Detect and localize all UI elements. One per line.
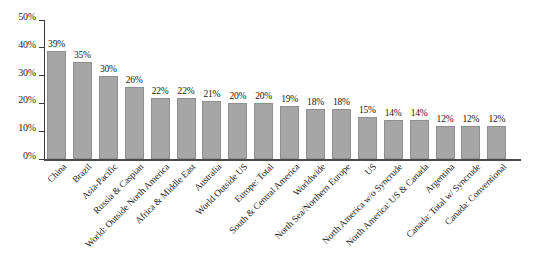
bar-value-label: 14%	[411, 108, 428, 118]
y-axis-tick-label: 30%	[18, 68, 36, 78]
bar-value-label: 12%	[462, 114, 479, 124]
x-axis-category-labels: ChinaBrazilAsia-PacificRussia & CaspianW…	[44, 161, 544, 278]
y-axis-tick-label: 50%	[18, 12, 36, 22]
bar[interactable]	[125, 87, 144, 159]
bar-slot: 21%	[202, 20, 221, 159]
x-axis-category-label-text: China	[45, 161, 69, 185]
bar[interactable]	[177, 98, 196, 159]
bar-value-label: 22%	[178, 86, 195, 96]
y-axis-tick-label: 0%	[23, 151, 36, 161]
bar-slot: 14%	[384, 20, 403, 159]
bar[interactable]	[487, 126, 506, 159]
bar-value-label: 19%	[281, 94, 298, 104]
y-axis-tick-label: 40%	[18, 40, 36, 50]
bar[interactable]	[306, 109, 325, 159]
bar-slot: 12%	[461, 20, 480, 159]
bar[interactable]	[73, 62, 92, 159]
bar-slot: 18%	[306, 20, 325, 159]
bar-slot: 20%	[254, 20, 273, 159]
bar-value-label: 26%	[126, 75, 143, 85]
y-axis-tick-label: 20%	[18, 95, 36, 105]
bar[interactable]	[280, 106, 299, 159]
bar[interactable]	[358, 117, 377, 159]
bar-value-label: 30%	[100, 64, 117, 74]
bar-value-label: 14%	[385, 108, 402, 118]
bar-slot: 22%	[151, 20, 170, 159]
bar-value-label: 22%	[152, 86, 169, 96]
x-axis-category-label: China	[45, 161, 69, 185]
bar-value-label: 18%	[333, 97, 350, 107]
bar[interactable]	[228, 103, 247, 159]
bar[interactable]	[151, 98, 170, 159]
bar-chart: 0%10%20%30%40%50% 39%35%30%26%22%22%21%2…	[0, 0, 544, 278]
bar-value-label: 12%	[488, 114, 505, 124]
bar[interactable]	[384, 120, 403, 159]
bar[interactable]	[332, 109, 351, 159]
bar-value-label: 20%	[229, 91, 246, 101]
bar-slot: 30%	[99, 20, 118, 159]
x-axis-category-label: US	[363, 161, 380, 178]
bar[interactable]	[99, 76, 118, 159]
bar-slot: 26%	[125, 20, 144, 159]
bar-slot: 35%	[73, 20, 92, 159]
bar[interactable]	[436, 126, 455, 159]
bar-slot: 18%	[332, 20, 351, 159]
bar-slot: 20%	[228, 20, 247, 159]
bar-slot: 12%	[487, 20, 506, 159]
bar-value-label: 20%	[255, 91, 272, 101]
bar-value-label: 39%	[48, 39, 65, 49]
x-axis-category-label-text: US	[363, 161, 380, 178]
bar[interactable]	[202, 101, 221, 159]
bar-slot: 15%	[358, 20, 377, 159]
bar-value-label: 21%	[203, 89, 220, 99]
bar-slot: 12%	[436, 20, 455, 159]
bar[interactable]	[461, 126, 480, 159]
bar-series: 39%35%30%26%22%22%21%20%20%19%18%18%15%1…	[44, 20, 521, 159]
bar[interactable]	[47, 51, 66, 159]
bar-slot: 19%	[280, 20, 299, 159]
bar-slot: 22%	[177, 20, 196, 159]
bar[interactable]	[410, 120, 429, 159]
bar-slot: 14%	[410, 20, 429, 159]
bar-value-label: 35%	[74, 50, 91, 60]
bar-value-label: 12%	[437, 114, 454, 124]
bar-slot: 39%	[47, 20, 66, 159]
y-axis-tick-label: 10%	[18, 123, 36, 133]
bar-value-label: 18%	[307, 97, 324, 107]
bar[interactable]	[254, 103, 273, 159]
y-axis: 0%10%20%30%40%50%	[0, 0, 44, 160]
bar-value-label: 15%	[359, 105, 376, 115]
